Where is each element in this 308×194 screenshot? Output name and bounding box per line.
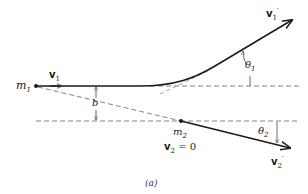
trajectory-m2	[181, 121, 290, 148]
figure-caption: (a)	[145, 179, 157, 188]
particle-m2	[179, 119, 183, 123]
scattering-diagram	[0, 0, 308, 194]
label-v1-prime: v1′	[266, 8, 279, 22]
label-b: b	[92, 98, 98, 108]
asymptote-line	[38, 87, 181, 121]
particle-m1	[34, 84, 38, 88]
label-theta1: θ1	[245, 60, 256, 73]
label-v2-prime: v2′	[271, 156, 284, 170]
label-m2: m2	[173, 127, 187, 140]
trajectory-m1	[36, 20, 292, 86]
label-m1: m1	[16, 80, 31, 94]
label-theta2: θ2	[258, 126, 269, 139]
label-v2-equals-zero: v2 = 0	[164, 142, 196, 155]
label-v1: v1	[49, 70, 60, 83]
